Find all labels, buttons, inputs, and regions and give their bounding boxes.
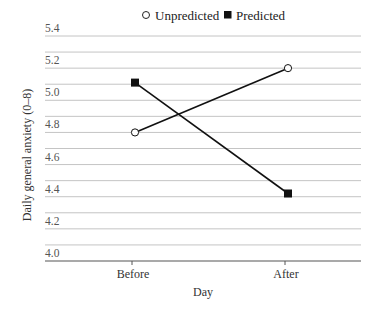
y-tick-label: 5.4 xyxy=(45,22,60,34)
y-tick-label: 4.4 xyxy=(45,183,60,195)
legend-label-unpredicted: Unpredicted xyxy=(155,8,220,23)
legend: Unpredicted Predicted xyxy=(143,8,286,23)
x-axis-title: Day xyxy=(193,285,213,299)
legend-label-predicted: Predicted xyxy=(236,8,286,23)
filled-square-icon xyxy=(224,11,232,19)
open-circle-icon xyxy=(143,12,150,19)
y-axis-title: Daily general anxiety (0–8) xyxy=(20,89,34,221)
y-tick-label: 4.0 xyxy=(45,247,60,259)
x-axis-ticks: BeforeAfter xyxy=(117,261,299,281)
filled-square-marker xyxy=(131,79,139,87)
open-circle-marker xyxy=(131,129,138,136)
y-tick-label: 4.2 xyxy=(45,215,60,227)
x-tick-label: After xyxy=(273,267,298,281)
y-tick-label: 5.2 xyxy=(45,54,60,66)
line-chart: 4.04.24.44.64.85.05.25.4 BeforeAfter Day… xyxy=(0,0,382,310)
y-axis-tick-labels: 4.04.24.44.64.85.05.25.4 xyxy=(45,22,60,259)
gridlines xyxy=(45,36,361,245)
x-tick-label: Before xyxy=(117,267,150,281)
y-tick-label: 4.8 xyxy=(45,118,60,130)
open-circle-marker xyxy=(284,65,291,72)
series-line xyxy=(135,83,288,194)
y-tick-label: 5.0 xyxy=(45,86,60,98)
series-predicted xyxy=(131,79,292,198)
y-tick-label: 4.6 xyxy=(45,151,60,163)
filled-square-marker xyxy=(284,190,292,198)
